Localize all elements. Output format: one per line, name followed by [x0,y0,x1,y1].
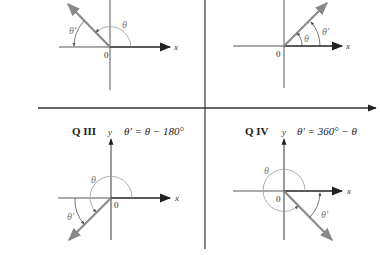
origin-label: 0 [104,50,109,60]
origin-label: 0 [276,194,281,204]
y-axis-label: y [107,127,112,137]
theta-label: θ [91,174,96,185]
x-axis-label: x [345,41,350,51]
reference-angle-diagram: x 0 θ θ′ x 0 θ θ′ Q III y θ′ = θ − 180° … [0,0,380,255]
theta-label: θ [122,19,127,30]
theta-prime-label: θ′ [67,211,75,222]
theta-prime-label: θ′ [322,26,330,37]
theta-label: θ [304,33,309,44]
quadrant-4-diagram: Q IV y θ′ = 360° − θ x 0 θ θ′ [233,125,358,240]
quadrant-2-diagram: x 0 θ θ′ [59,0,178,90]
quadrant-1-diagram: x 0 θ θ′ [233,0,350,88]
quadrant-label: Q III [72,125,96,137]
x-axis-label: x [173,42,178,52]
formula: θ′ = θ − 180° [124,125,185,137]
theta-prime-label: θ′ [69,25,77,36]
y-axis-label: y [281,127,286,137]
theta-arc [297,33,302,46]
origin-label: 0 [114,200,119,210]
quadrant-label: Q IV [245,125,269,137]
formula: θ′ = 360° − θ [297,125,358,137]
quadrant-3-diagram: Q III y θ′ = θ − 180° x 0 θ θ′ [58,125,185,240]
x-axis-label: x [174,193,179,203]
origin-label: 0 [276,49,281,59]
theta-prime-arc [75,198,84,224]
theta-prime-arc [311,22,320,46]
theta-label: θ [264,165,269,176]
theta-prime-arc [310,193,320,217]
theta-prime-label: θ′ [321,209,329,220]
x-axis-label: x [346,186,351,196]
